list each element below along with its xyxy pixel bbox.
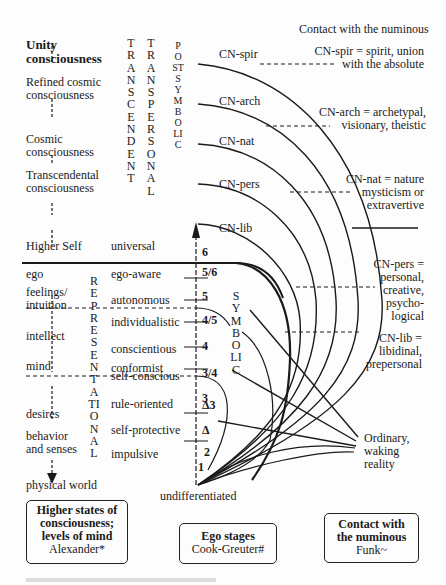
level-refined-cosmic: Refined cosmic consciousness [26,76,116,102]
ego-stage-ego-aware: ego-aware [111,268,161,281]
legend-box-funk: Contact with the numinous Funk~ [324,513,419,563]
cn-def-arch: CN-arch = archetypal, visionary, theisti… [319,106,426,132]
ego-stage-self-protective: self-protective [111,424,180,437]
level-intellect: intellect [26,330,65,343]
label-transpersonal: TRANSPERSONAL [145,37,157,197]
cn-label-pers: CN-pers [219,178,260,191]
axis-6: 6 [202,246,208,259]
ego-stage-conscientious: conscientious [111,343,176,356]
cn-def-nat: CN-nat = nature mysticism or extravertiv… [346,173,424,212]
label-symbolic: SYMBOLIC [230,290,242,376]
label-postsymbolic: POSTSYMBOLIC [172,40,184,150]
level-mind: mind [26,360,51,373]
cn-def-pers: CN-pers = personal, creative, psycho- lo… [374,258,424,323]
axis-undifferentiated: undifferentiated [160,490,236,503]
diagram-header: Contact with the numinous [299,23,429,36]
ego-stage-universal: universal [111,240,155,253]
level-ego: ego [26,268,43,281]
ego-stage-conformist: conformist [111,362,163,375]
cn-label-arch: CN-arch [219,95,260,108]
ego-stage-rule-oriented: rule-oriented [111,398,173,411]
ego-stage-autonomous: autonomous [111,294,170,307]
label-representational: REPRESENTATIONAL [88,275,100,459]
axis-5: 5 [202,290,208,303]
level-behavior-senses: behavior and senses [26,430,86,456]
axis-4: 4 [202,340,208,353]
ego-stage-impulsive: impulsive [111,448,158,461]
left-title: Unity consciousness [26,38,116,66]
axis-5-6: 5/6 [202,266,217,279]
axis-delta-3: Δ3 [202,399,216,412]
ordinary-waking-reality: Ordinary, waking reality [364,432,410,471]
axis-2: 2 [204,446,210,459]
axis-4-5: 4/5 [202,314,217,327]
axis-delta: Δ [202,424,210,437]
legend-box-cook-greuter: Ego stages Cook-Greuter# [179,523,277,564]
cn-def-lib: CN-lib = libidinal, prepersonal [366,332,422,371]
level-transcendental: Transcendental consciousness [26,169,122,195]
footnote-cutoff [26,578,216,582]
level-cosmic: Cosmic consciousness [26,133,116,159]
axis-3-4: 3/4 [202,367,217,380]
ego-stage-individualistic: individualistic [111,316,180,329]
label-transcendent: TRANSCENDENT [125,37,137,185]
cn-label-nat: CN-nat [219,135,254,148]
level-physical-world: physical world [26,479,97,492]
cn-label-spir: CN-spir [219,48,258,61]
axis-1: 1 [198,461,204,474]
cn-label-lib: CN-lib [219,222,252,235]
level-feelings-intuition: feelings/ intuition [26,286,86,312]
cn-def-spir: CN-spir = spirit, union with the absolut… [315,45,424,71]
level-higher-self: Higher Self [26,240,82,253]
level-desires: desires [26,408,59,421]
legend-box-alexander: Higher states of consciousness; levels o… [26,500,128,564]
